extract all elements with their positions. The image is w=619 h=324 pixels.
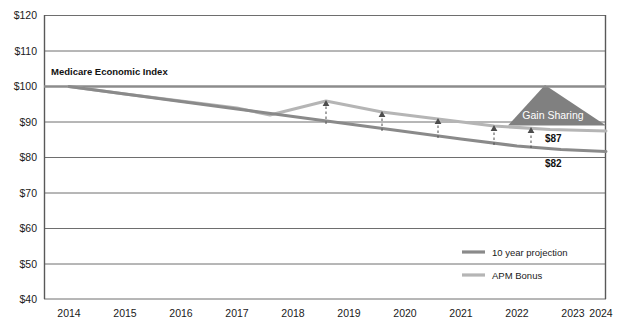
x-tick-label: 2018 xyxy=(281,307,305,319)
gain-sharing-label: Gain Sharing xyxy=(522,109,583,121)
x-tick-label: 2015 xyxy=(113,307,137,319)
x-tick-label: 2023 xyxy=(561,307,585,319)
x-tick-label: 2021 xyxy=(449,307,473,319)
x-tick-label: 2020 xyxy=(393,307,417,319)
x-tick-label: 2022 xyxy=(505,307,529,319)
mei-annotation-label: Medicare Economic Index xyxy=(51,66,168,77)
y-tick-label: $100 xyxy=(14,80,38,92)
chart-container: $120 $110 $100 $90 $80 $70 $60 $50 $40 2… xyxy=(0,0,619,324)
x-tick-label: 2024 xyxy=(589,307,613,319)
y-tick-label: $90 xyxy=(19,116,37,128)
x-tick-label: 2014 xyxy=(57,307,81,319)
y-tick-label: $110 xyxy=(14,45,37,57)
x-tick-label: 2016 xyxy=(169,307,193,319)
y-tick-label: $70 xyxy=(19,187,37,199)
y-tick-label: $60 xyxy=(19,222,37,234)
y-tick-label: $40 xyxy=(19,293,37,305)
economic-index-line-chart: $120 $110 $100 $90 $80 $70 $60 $50 $40 2… xyxy=(0,0,619,324)
y-tick-label: $80 xyxy=(19,151,37,163)
y-tick-label: $120 xyxy=(14,9,38,21)
legend-label-apm-bonus: APM Bonus xyxy=(492,270,542,281)
x-tick-label: 2019 xyxy=(337,307,361,319)
y-axis-tick-labels: $120 $110 $100 $90 $80 $70 $60 $50 $40 xyxy=(14,9,38,305)
y-tick-label: $50 xyxy=(19,258,37,270)
x-tick-label: 2017 xyxy=(225,307,249,319)
x-axis-tick-labels: 2014 2015 2016 2017 2018 2019 2020 2021 … xyxy=(57,307,613,319)
projection-end-value-label: $82 xyxy=(545,158,562,169)
legend-label-projection: 10 year projection xyxy=(492,247,568,258)
apm-end-value-label: $87 xyxy=(545,133,562,144)
